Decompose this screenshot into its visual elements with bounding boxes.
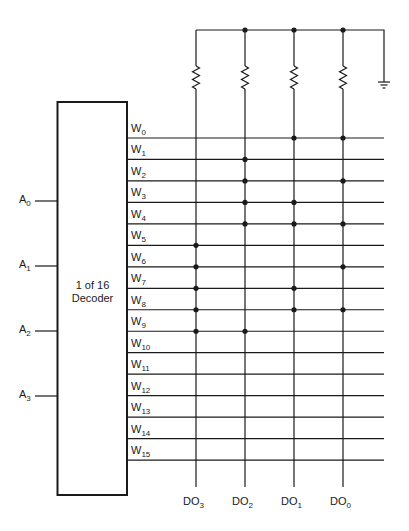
memory-cell-dot <box>193 329 198 334</box>
address-input-label: A2 <box>19 324 31 335</box>
memory-cell-dot <box>242 200 247 205</box>
memory-cell-dot <box>340 135 345 140</box>
junction-dot <box>242 27 247 32</box>
memory-cell-dot <box>340 264 345 269</box>
top-bus <box>196 30 384 82</box>
data-output-label: DO2 <box>232 496 253 507</box>
word-line-label: W10 <box>131 338 150 349</box>
resistor-icon <box>291 66 298 89</box>
memory-cell-dot <box>242 157 247 162</box>
address-input-label: A0 <box>19 194 31 205</box>
word-line-label: W11 <box>131 359 150 370</box>
output-column-do2 <box>242 30 249 487</box>
word-line-label: W4 <box>131 209 146 220</box>
memory-cell-dot <box>242 221 247 226</box>
memory-cell-dot <box>291 135 296 140</box>
memory-cell-dot <box>193 286 198 291</box>
decoder-label: 1 of 16 Decoder <box>58 279 127 305</box>
word-line-label: W8 <box>131 295 146 306</box>
memory-cell-dot <box>291 286 296 291</box>
word-line-label: W2 <box>131 166 146 177</box>
memory-cell-dot <box>291 307 296 312</box>
decoder-label-line2: Decoder <box>58 292 127 305</box>
data-output-label: DO3 <box>183 496 204 507</box>
word-line-label: W12 <box>131 381 150 392</box>
word-line-label: W3 <box>131 187 146 198</box>
address-input-label: A3 <box>19 389 31 400</box>
memory-cell-dot <box>193 243 198 248</box>
word-line-label: W9 <box>131 316 146 327</box>
ground-icon <box>378 82 390 88</box>
junction-dot <box>340 27 345 32</box>
word-line-label: W6 <box>131 252 146 263</box>
data-output-label: DO1 <box>281 496 302 507</box>
memory-cell-dot <box>340 221 345 226</box>
memory-cell-dot <box>291 221 296 226</box>
memory-cell-dot <box>242 329 247 334</box>
decoder-label-line1: 1 of 16 <box>58 279 127 292</box>
word-line-label: W14 <box>131 424 150 435</box>
resistor-icon <box>193 66 200 89</box>
output-column-do3 <box>193 30 200 487</box>
rom-decoder-diagram <box>0 0 409 531</box>
word-line-label: W13 <box>131 402 150 413</box>
junction-dot <box>291 27 296 32</box>
word-line-label: W5 <box>131 230 146 241</box>
word-line-label: W0 <box>131 123 146 134</box>
resistor-icon <box>340 66 347 89</box>
memory-cell-dot <box>242 178 247 183</box>
word-line-label: W15 <box>131 445 150 456</box>
memory-cell-dot <box>340 178 345 183</box>
output-column-do1 <box>291 30 298 487</box>
word-line-label: W7 <box>131 273 146 284</box>
memory-cell-dot <box>193 307 198 312</box>
memory-cell-dot <box>340 307 345 312</box>
memory-cell-dot <box>291 200 296 205</box>
data-output-label: DO0 <box>330 496 351 507</box>
resistor-icon <box>242 66 249 89</box>
address-input-label: A1 <box>19 259 31 270</box>
memory-cell-dot <box>193 264 198 269</box>
word-line-label: W1 <box>131 144 146 155</box>
output-column-do0 <box>340 30 347 487</box>
